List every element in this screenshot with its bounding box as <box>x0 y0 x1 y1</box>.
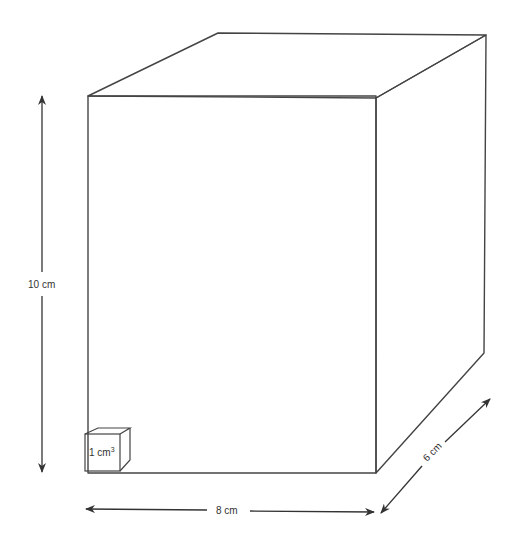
width-label: 8 cm <box>216 505 238 516</box>
unit-cube-label: 1 cm3 <box>89 446 115 458</box>
right-face <box>376 35 486 473</box>
depth-label: 6 cm <box>421 440 444 463</box>
front-face <box>88 96 376 473</box>
prism-diagram: 1 cm3 10 cm 8 cm 6 cm <box>0 0 512 541</box>
height-label: 10 cm <box>28 279 55 290</box>
top-face <box>88 33 486 98</box>
rectangular-prism <box>88 33 486 473</box>
